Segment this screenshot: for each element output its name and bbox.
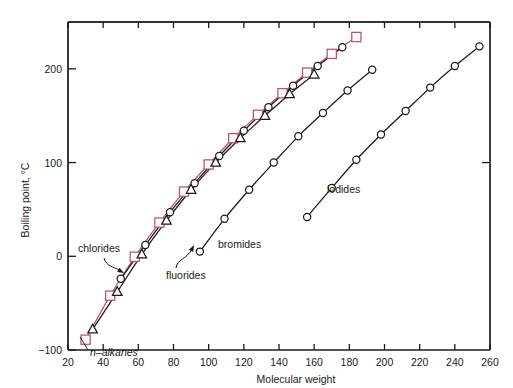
boiling-point-vs-molecular-weight-figure: 20406080100120140160180200220240260−1000… (0, 0, 513, 388)
data-point-fluorides (88, 324, 98, 333)
data-point-bromides (344, 87, 351, 94)
data-point-chlorides (265, 104, 272, 111)
x-tick-label: 100 (200, 356, 218, 368)
x-axis-title: Molecular weight (257, 373, 336, 385)
y-tick-label: 100 (44, 157, 62, 169)
chlorides-leader-line (104, 258, 121, 271)
data-point-iodides (304, 213, 311, 220)
data-point-bromides (369, 66, 376, 73)
data-point-iodides (427, 84, 434, 91)
x-tick-label: 180 (341, 356, 359, 368)
data-point-iodides (402, 107, 409, 114)
y-tick-label: −100 (38, 344, 62, 356)
data-point-chlorides (216, 152, 223, 159)
data-point-iodides (476, 43, 483, 50)
data-series-markers (81, 32, 483, 344)
data-point-n-alkanes (327, 49, 336, 58)
x-tick-label: 220 (411, 356, 429, 368)
data-series-lines (86, 37, 480, 340)
axes-frame (68, 22, 490, 350)
data-point-iodides (353, 156, 360, 163)
x-tick-label: 200 (376, 356, 394, 368)
data-point-iodides (451, 62, 458, 69)
series-label-chlorides: chlorides (78, 242, 120, 254)
data-point-bromides (270, 159, 277, 166)
data-point-bromides (196, 248, 203, 255)
data-point-bromides (246, 186, 253, 193)
x-tick-label: 160 (305, 356, 323, 368)
series-label-fluorides: fluorides (166, 269, 206, 281)
data-point-chlorides (314, 62, 321, 69)
data-point-chlorides (289, 82, 296, 89)
data-point-chlorides (166, 209, 173, 216)
data-point-n-alkanes (352, 32, 361, 41)
x-tick-label: 260 (481, 356, 499, 368)
fluorides-arrowhead (189, 245, 194, 252)
series-line-n-alkanes (86, 37, 357, 340)
data-point-iodides (377, 131, 384, 138)
series-line-fluorides (93, 74, 315, 329)
axis-ticks (68, 22, 490, 350)
data-point-bromides (295, 133, 302, 140)
y-axis-title: Boiling point, °C (19, 162, 31, 237)
data-point-bromides (221, 215, 228, 222)
data-point-chlorides (240, 127, 247, 134)
data-point-chlorides (191, 180, 198, 187)
x-tick-label: 120 (235, 356, 253, 368)
chlorides-arrowhead (117, 268, 124, 273)
x-tick-label: 240 (446, 356, 464, 368)
data-point-chlorides (117, 275, 124, 282)
fluorides-leader-line (176, 249, 192, 268)
y-tick-label: 200 (44, 63, 62, 75)
y-tick-label: 0 (56, 250, 62, 262)
series-label-n-alkanes: n–alkanes (90, 346, 139, 358)
data-point-chlorides (142, 241, 149, 248)
series-label-bromides: bromides (218, 238, 261, 250)
x-tick-label: 20 (62, 356, 74, 368)
data-point-bromides (319, 109, 326, 116)
x-tick-label: 140 (270, 356, 288, 368)
x-tick-label: 80 (168, 356, 180, 368)
chart-canvas: 20406080100120140160180200220240260−1000… (0, 0, 513, 388)
series-label-iodides: iodides (327, 183, 360, 195)
data-point-chlorides (339, 44, 346, 51)
data-point-n-alkanes (81, 335, 90, 344)
